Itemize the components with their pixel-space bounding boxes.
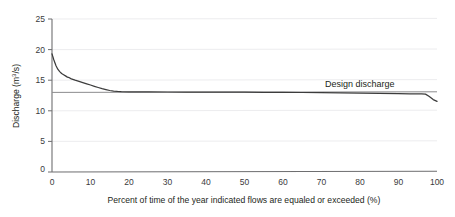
gridline-25 [52, 18, 437, 19]
x-tick-label-70: 70 [317, 177, 327, 187]
x-tick-label-80: 80 [355, 177, 365, 187]
y-tick-label-20: 20 [36, 45, 46, 55]
gridline-20 [52, 49, 437, 50]
gridline-5 [52, 141, 437, 142]
x-tick-label-10: 10 [86, 177, 96, 187]
x-tick-label-90: 90 [394, 177, 404, 187]
y-tick-label-0: 0 [40, 164, 45, 174]
y-tick-marks [48, 19, 52, 172]
x-tick-labels: 0 10 20 30 40 50 60 70 80 90 100 [50, 177, 445, 187]
y-axis-title-pre: Discharge (m [11, 77, 21, 128]
x-tick-label-50: 50 [240, 177, 250, 187]
svg-text:Discharge (m3/s): Discharge (m3/s) [11, 64, 21, 128]
gridline-10 [52, 110, 437, 111]
chart-canvas: 25 20 15 10 5 0 0 10 20 30 40 50 60 70 8… [0, 0, 455, 217]
y-axis-title-post: /s) [11, 64, 21, 74]
x-tick-label-100: 100 [430, 177, 444, 187]
design-discharge-label: Design discharge [325, 79, 395, 89]
y-tick-label-15: 15 [36, 75, 46, 85]
y-tick-label-10: 10 [36, 106, 46, 116]
flow-duration-curve [52, 54, 437, 102]
x-axis [52, 171, 437, 172]
x-tick-label-20: 20 [124, 177, 134, 187]
x-tick-label-40: 40 [201, 177, 211, 187]
axes [52, 19, 437, 172]
y-axis-title: Discharge (m3/s) [11, 64, 21, 128]
y-tick-label-25: 25 [36, 14, 46, 24]
x-axis-title: Percent of time of the year indicated fl… [108, 195, 381, 205]
y-tick-labels: 25 20 15 10 5 0 [36, 14, 46, 174]
x-tick-label-30: 30 [163, 177, 173, 187]
y-tick-label-5: 5 [40, 136, 45, 146]
x-tick-label-60: 60 [278, 177, 288, 187]
flow-duration-chart: 25 20 15 10 5 0 0 10 20 30 40 50 60 70 8… [0, 0, 455, 217]
x-tick-label-0: 0 [50, 177, 55, 187]
